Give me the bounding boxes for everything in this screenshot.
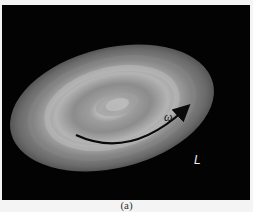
omega-label: ω: [164, 110, 172, 124]
angular-momentum-label: L: [194, 153, 201, 167]
disk-diagram: ω L: [0, 0, 253, 212]
figure-caption: (a): [0, 199, 253, 211]
